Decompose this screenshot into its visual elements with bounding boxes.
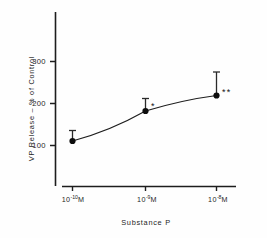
x-tick-1-exponent: -10: [70, 194, 78, 200]
x-axis-title: Substance P: [55, 218, 237, 227]
chart-figure: 300 200 100 10-10M 10-9M 10-8M * ** VP R…: [0, 0, 267, 238]
data-point-1: [69, 138, 75, 144]
data-point-2: [142, 108, 148, 114]
data-point-3: [213, 92, 219, 98]
series-line: [73, 96, 217, 142]
x-tick-3-base: 10: [208, 195, 217, 204]
x-tick-label-2: 10-9M: [126, 194, 168, 204]
x-tick-2-unit: M: [151, 195, 157, 204]
x-tick-3-unit: M: [222, 195, 228, 204]
x-tick-label-3: 10-8M: [197, 194, 239, 204]
y-axis-title: VP Release – % of Control: [27, 24, 36, 194]
error-bars: [69, 72, 220, 141]
significance-marker-point-2: *: [151, 102, 156, 111]
x-tick-label-1: 10-10M: [52, 194, 94, 204]
data-markers: [69, 92, 219, 144]
x-tick-2-base: 10: [137, 195, 146, 204]
significance-marker-point-3: **: [222, 88, 231, 97]
x-tick-1-unit: M: [78, 195, 84, 204]
